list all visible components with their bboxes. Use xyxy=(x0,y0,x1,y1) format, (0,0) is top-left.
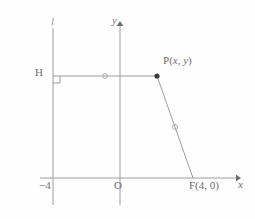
y-axis-group xyxy=(117,21,124,205)
geometry-figure: l y x H P(x, y) F(4, 0) O −4 xyxy=(0,0,255,219)
origin-label: O xyxy=(114,180,122,191)
point-p-label: P(x, y) xyxy=(163,55,192,66)
point-f-label: F(4, 0) xyxy=(189,180,219,191)
directrix-label-l: l xyxy=(51,16,54,27)
point-h-label: H xyxy=(35,67,43,78)
x-tick-label-neg4: −4 xyxy=(39,180,51,191)
segment-pf xyxy=(157,76,193,178)
x-axis-label: x xyxy=(238,179,243,190)
y-axis-label: y xyxy=(112,15,117,26)
y-axis-arrow-icon xyxy=(117,21,124,26)
point-p-paren-close: ) xyxy=(188,54,192,66)
right-angle-marker-icon xyxy=(53,76,60,83)
point-p-dot xyxy=(154,73,159,78)
